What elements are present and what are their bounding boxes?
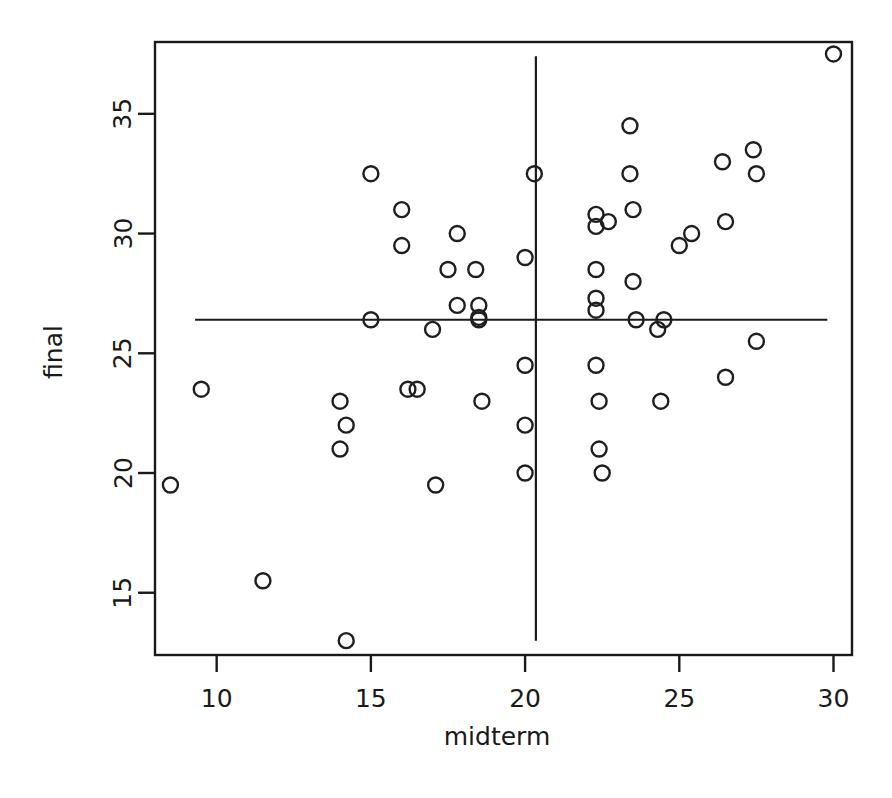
data-point [450, 226, 465, 241]
data-point [255, 573, 270, 588]
axis-ticks [138, 114, 833, 672]
data-point [622, 118, 637, 133]
data-point [194, 382, 209, 397]
data-point [672, 238, 687, 253]
data-point [826, 46, 841, 61]
data-point [394, 238, 409, 253]
data-points [163, 46, 841, 648]
data-point [589, 358, 604, 373]
reference-lines [195, 56, 827, 640]
data-point [440, 262, 455, 277]
data-point [428, 477, 443, 492]
x-axis-title: midterm [444, 722, 551, 751]
data-point [468, 262, 483, 277]
data-point [450, 298, 465, 313]
data-point [518, 418, 533, 433]
data-point [474, 394, 489, 409]
y-tick-label: 15 [109, 577, 138, 609]
y-tick-label: 30 [109, 218, 138, 250]
data-point [749, 334, 764, 349]
x-tick-label: 10 [201, 684, 233, 713]
data-point [394, 202, 409, 217]
data-point [595, 466, 610, 481]
data-point [626, 202, 641, 217]
data-point [518, 250, 533, 265]
x-tick-label: 20 [509, 684, 541, 713]
data-point [339, 418, 354, 433]
data-point [333, 394, 348, 409]
data-point [518, 466, 533, 481]
data-point [589, 262, 604, 277]
data-point [425, 322, 440, 337]
chart-canvas: 10152025301520253035 midterm final [0, 0, 892, 798]
y-tick-label: 35 [109, 98, 138, 130]
data-point [339, 633, 354, 648]
data-point [749, 166, 764, 181]
data-point [410, 382, 425, 397]
x-tick-label: 15 [355, 684, 387, 713]
data-point [518, 358, 533, 373]
data-point [592, 442, 607, 457]
data-point [746, 142, 761, 157]
y-tick-label: 20 [109, 457, 138, 489]
data-point [622, 166, 637, 181]
x-tick-label: 30 [818, 684, 850, 713]
data-point [653, 394, 668, 409]
data-point [626, 274, 641, 289]
data-point [718, 370, 733, 385]
data-point [363, 166, 378, 181]
data-point [715, 154, 730, 169]
plot-box [155, 42, 852, 655]
plot-frame [155, 42, 852, 655]
data-point [527, 166, 542, 181]
scatter-plot-figure: 10152025301520253035 midterm final [0, 0, 892, 798]
data-point [684, 226, 699, 241]
y-tick-label: 25 [109, 337, 138, 369]
data-point [163, 477, 178, 492]
axis-tick-labels: 10152025301520253035 [109, 98, 850, 713]
y-axis-title: final [39, 325, 68, 379]
data-point [333, 442, 348, 457]
data-point [718, 214, 733, 229]
x-tick-label: 25 [663, 684, 695, 713]
data-point [592, 394, 607, 409]
